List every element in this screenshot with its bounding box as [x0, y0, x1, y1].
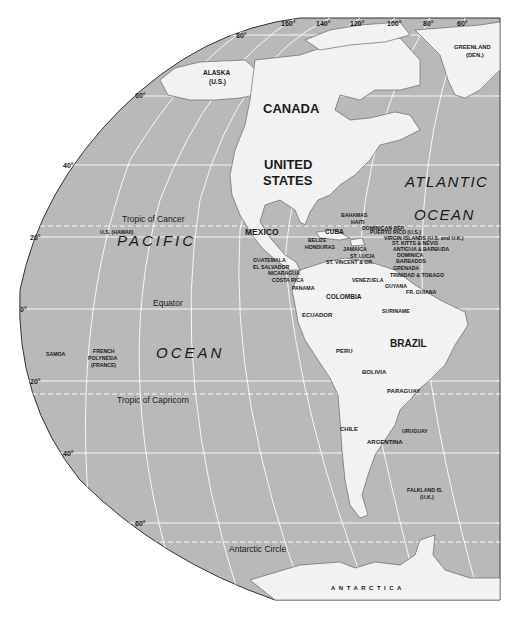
- svg-text:VENEZUELA: VENEZUELA: [352, 277, 384, 283]
- samoa-label: SAMOA: [46, 351, 66, 357]
- antarctica-label: ANTARCTICA: [331, 585, 405, 591]
- united-states-label-2: STATES: [263, 173, 313, 188]
- french-polynesia-label-3: (FRANCE): [91, 362, 116, 368]
- svg-text:COSTA RICA: COSTA RICA: [272, 277, 304, 283]
- svg-text:BOLIVIA: BOLIVIA: [362, 369, 387, 375]
- mexico-label: MEXICO: [245, 227, 279, 237]
- svg-text:PERU: PERU: [336, 348, 353, 354]
- lon-60: 60°: [457, 20, 468, 27]
- svg-text:NICARAGUA: NICARAGUA: [268, 270, 300, 276]
- svg-text:BELIZE: BELIZE: [308, 237, 327, 243]
- lat-60s: 60°: [135, 520, 146, 527]
- lat-0: 0°: [20, 306, 27, 313]
- svg-text:GUATEMALA: GUATEMALA: [253, 257, 286, 263]
- tropic-of-cancer-label: Tropic of Cancer: [122, 214, 185, 224]
- americas-map: 160° 140° 120° 100° 80° 60° 80° 60° 40° …: [0, 0, 517, 617]
- svg-text:CHILE: CHILE: [340, 426, 358, 432]
- lon-80: 80°: [423, 20, 434, 27]
- greenland-label-2: (DEN.): [466, 52, 484, 58]
- svg-text:ST. VINCENT & GR.: ST. VINCENT & GR.: [326, 259, 374, 265]
- equator-label: Equator: [153, 298, 183, 308]
- united-states-label-1: UNITED: [264, 157, 312, 172]
- french-polynesia-label-2: POLYNESIA: [88, 355, 118, 361]
- lat-60n: 60°: [135, 92, 146, 99]
- lon-140: 140°: [316, 20, 331, 27]
- falkland-label-2: (U.K.): [420, 494, 434, 500]
- atlantic-ocean-label-2: OCEAN: [414, 206, 475, 223]
- svg-text:BARBADOS: BARBADOS: [396, 258, 427, 264]
- svg-text:URUGUAY: URUGUAY: [402, 428, 428, 434]
- greenland-label-1: GREENLAND: [454, 44, 491, 50]
- lat-20s: 20°: [30, 378, 41, 385]
- svg-text:PANAMA: PANAMA: [292, 285, 315, 291]
- svg-text:JAMAICA: JAMAICA: [343, 246, 367, 252]
- tropic-of-capricorn-label: Tropic of Capricorn: [117, 395, 189, 405]
- svg-text:SURINAME: SURINAME: [382, 308, 410, 314]
- lat-20n: 20°: [30, 234, 41, 241]
- alaska-label-2: (U.S.): [209, 78, 226, 86]
- svg-text:ARGENTINA: ARGENTINA: [367, 439, 403, 445]
- svg-text:GRENADA: GRENADA: [393, 265, 419, 271]
- svg-text:COLOMBIA: COLOMBIA: [326, 293, 362, 300]
- atlantic-ocean-label-1: ATLANTIC: [404, 173, 488, 190]
- lon-160: 160°: [281, 20, 296, 27]
- lat-40s: 40°: [63, 450, 74, 457]
- pacific-ocean-label-2: OCEAN: [156, 344, 224, 361]
- svg-text:HONDURAS: HONDURAS: [305, 244, 336, 250]
- alaska-label-1: ALASKA: [203, 69, 230, 76]
- svg-text:FR. GUIANA: FR. GUIANA: [406, 289, 437, 295]
- brazil-label: BRAZIL: [390, 338, 427, 349]
- lon-100: 100°: [387, 20, 402, 27]
- french-polynesia-label-1: FRENCH: [93, 348, 115, 354]
- falkland-label-1: FALKLAND IS.: [407, 487, 443, 493]
- lat-40n: 40°: [63, 162, 74, 169]
- antarctic-circle-label: Antarctic Circle: [229, 544, 286, 554]
- svg-text:TRINIDAD & TOBAGO: TRINIDAD & TOBAGO: [390, 272, 444, 278]
- lat-80: 80°: [236, 32, 247, 39]
- svg-text:GUYANA: GUYANA: [385, 283, 407, 289]
- svg-text:ECUADOR: ECUADOR: [302, 312, 333, 318]
- hawaii-label: U.S. (HAWAII): [100, 229, 134, 235]
- svg-text:PARAGUAY: PARAGUAY: [387, 388, 420, 394]
- canada-label: CANADA: [263, 101, 320, 116]
- lon-120: 120°: [350, 20, 365, 27]
- svg-text:CUBA: CUBA: [325, 228, 344, 235]
- svg-text:BAHAMAS: BAHAMAS: [341, 212, 368, 218]
